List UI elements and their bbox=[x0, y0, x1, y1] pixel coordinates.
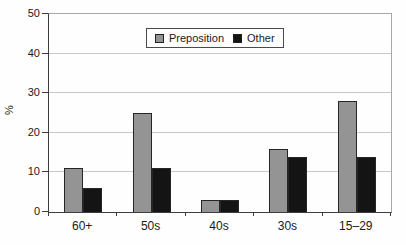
legend-label-other: Other bbox=[247, 32, 275, 44]
bar-other-30s bbox=[288, 157, 307, 212]
y-tick-label-30: 30 bbox=[28, 86, 40, 99]
y-tick-label-50: 50 bbox=[28, 7, 40, 20]
bar-preposition-50s bbox=[133, 113, 152, 212]
bar-other-50s bbox=[152, 168, 171, 212]
gridline-40 bbox=[49, 53, 391, 54]
y-tick-mark bbox=[42, 53, 48, 54]
y-tick-mark bbox=[42, 92, 48, 93]
y-tick-mark bbox=[42, 132, 48, 133]
x-tick-label-40s: 40s bbox=[209, 219, 228, 233]
y-tick-label-0: 0 bbox=[34, 205, 40, 218]
legend: Preposition Other bbox=[146, 28, 284, 48]
x-tick-label-30s: 30s bbox=[278, 219, 297, 233]
legend-swatch-other bbox=[233, 34, 242, 43]
x-tick-label-15–29: 15–29 bbox=[339, 219, 372, 233]
legend-label-preposition: Preposition bbox=[169, 32, 224, 44]
bar-other-40s bbox=[220, 200, 239, 212]
bar-preposition-15–29 bbox=[338, 101, 357, 212]
y-tick-label-10: 10 bbox=[28, 165, 40, 178]
bar-other-15–29 bbox=[357, 157, 376, 212]
bar-preposition-40s bbox=[201, 200, 220, 212]
x-tick-mark bbox=[185, 212, 186, 216]
bar-preposition-30s bbox=[269, 149, 288, 212]
y-tick-mark bbox=[42, 171, 48, 172]
legend-item-preposition: Preposition bbox=[155, 32, 224, 44]
gridline-30 bbox=[49, 92, 391, 93]
x-tick-mark bbox=[322, 212, 323, 216]
x-tick-mark bbox=[116, 212, 117, 216]
y-tick-label-40: 40 bbox=[28, 46, 40, 59]
legend-swatch-preposition bbox=[155, 34, 164, 43]
y-axis-tick-labels: 01020304050 bbox=[0, 13, 40, 211]
y-tick-label-20: 20 bbox=[28, 125, 40, 138]
bar-preposition-60+ bbox=[64, 168, 83, 212]
bar-chart-figure: % 01020304050 Preposition Other 60+50s40… bbox=[0, 0, 406, 245]
y-tick-mark bbox=[42, 13, 48, 14]
bar-other-60+ bbox=[83, 188, 102, 212]
x-tick-mark bbox=[253, 212, 254, 216]
x-tick-mark bbox=[48, 212, 49, 216]
x-tick-mark bbox=[390, 212, 391, 216]
x-tick-label-50s: 50s bbox=[141, 219, 160, 233]
legend-item-other: Other bbox=[233, 32, 275, 44]
x-tick-label-60+: 60+ bbox=[72, 219, 92, 233]
